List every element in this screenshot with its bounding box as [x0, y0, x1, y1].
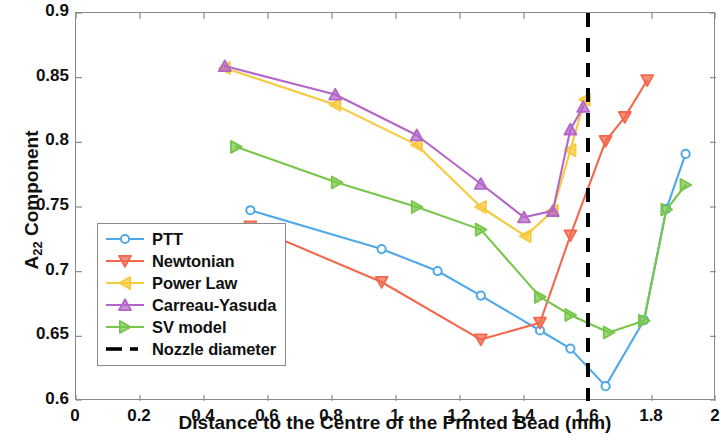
legend-item-power-law[interactable]: Power Law	[104, 272, 276, 294]
legend-label: Nozzle diameter	[148, 340, 276, 359]
legend-marker	[121, 235, 129, 243]
data-point	[564, 124, 576, 135]
x-axis-label: Distance to the Centre of the Printed Be…	[75, 412, 715, 434]
data-point	[475, 334, 487, 345]
legend-symbol	[104, 251, 148, 271]
legend-marker	[120, 321, 131, 333]
series-sv-model	[231, 141, 691, 339]
legend-item-newtonian[interactable]: Newtonian	[104, 250, 276, 272]
data-point	[682, 150, 690, 158]
data-point	[477, 291, 485, 299]
series-newtonian	[244, 75, 653, 345]
legend-symbol	[104, 229, 148, 249]
legend-symbol	[104, 273, 148, 293]
data-point	[246, 206, 254, 214]
legend-symbol	[104, 317, 148, 337]
legend-label: PTT	[148, 230, 183, 249]
data-point	[332, 176, 343, 188]
data-point	[565, 309, 576, 321]
y-axis-tick-labels: 0.60.650.70.750.80.850.9	[12, 0, 69, 400]
data-point	[681, 179, 692, 191]
data-point	[376, 277, 388, 288]
series-line	[250, 154, 685, 386]
data-point	[641, 75, 653, 86]
legend-item-ptt[interactable]: PTT	[104, 228, 276, 250]
chart-legend: PTTNewtonianPower LawCarreau-YasudaSV mo…	[97, 223, 286, 366]
y-tick-label: 0.75	[17, 195, 69, 215]
series-line	[225, 66, 583, 217]
data-point	[330, 99, 341, 111]
y-tick-label: 0.7	[17, 260, 69, 280]
data-point	[564, 230, 576, 241]
y-tick-label: 0.65	[17, 324, 69, 344]
series-ptt	[246, 150, 689, 390]
legend-label: SV model	[148, 318, 226, 337]
data-point	[231, 141, 242, 153]
legend-label: Power Law	[148, 274, 237, 293]
legend-label: Newtonian	[148, 252, 235, 271]
y-tick-label: 0.8	[17, 130, 69, 150]
data-point	[604, 326, 615, 338]
legend-label: Carreau-Yasuda	[148, 296, 276, 315]
legend-symbol	[104, 339, 148, 359]
legend-item-sv-model[interactable]: SV model	[104, 316, 276, 338]
y-tick-label: 0.9	[17, 1, 69, 21]
legend-item-nozzle-diameter[interactable]: Nozzle diameter	[104, 338, 276, 360]
chart-figure: A22 Component 0.60.650.70.750.80.850.9 0…	[0, 0, 721, 440]
data-point	[600, 136, 612, 147]
data-point	[434, 267, 442, 275]
legend-marker	[119, 277, 130, 289]
data-point	[566, 345, 574, 353]
series-line	[225, 68, 585, 236]
legend-symbol	[104, 295, 148, 315]
data-point	[412, 201, 423, 213]
legend-item-carreau-yasuda[interactable]: Carreau-Yasuda	[104, 294, 276, 316]
data-point	[378, 245, 386, 253]
data-point	[411, 130, 423, 141]
y-tick-label: 0.85	[17, 66, 69, 86]
series-line	[236, 147, 686, 333]
data-point	[535, 291, 546, 303]
data-point	[602, 382, 610, 390]
data-point	[520, 230, 531, 242]
